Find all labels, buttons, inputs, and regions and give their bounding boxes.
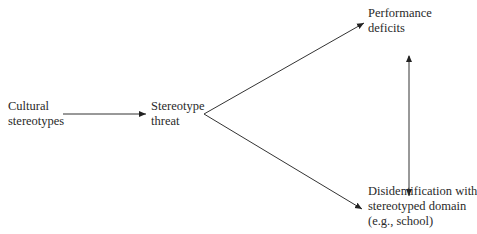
- node-label-line: threat: [151, 114, 204, 129]
- node-label-line: Performance: [368, 6, 432, 21]
- node-label-line: deficits: [368, 21, 432, 36]
- node-label-line: Disidentification with: [368, 184, 477, 199]
- node-label-line: (e.g., school): [368, 214, 477, 229]
- node-performance-deficits: Performance deficits: [368, 6, 432, 36]
- node-label-line: Cultural: [8, 99, 64, 114]
- arrow-threat-to-disidentification: [204, 114, 362, 209]
- node-label-line: stereotyped domain: [368, 199, 477, 214]
- arrow-threat-to-performance: [204, 23, 364, 114]
- node-cultural-stereotypes: Cultural stereotypes: [8, 99, 64, 129]
- node-stereotype-threat: Stereotype threat: [151, 99, 204, 129]
- node-label-line: stereotypes: [8, 114, 64, 129]
- node-disidentification: Disidentification with stereotyped domai…: [368, 184, 477, 229]
- node-label-line: Stereotype: [151, 99, 204, 114]
